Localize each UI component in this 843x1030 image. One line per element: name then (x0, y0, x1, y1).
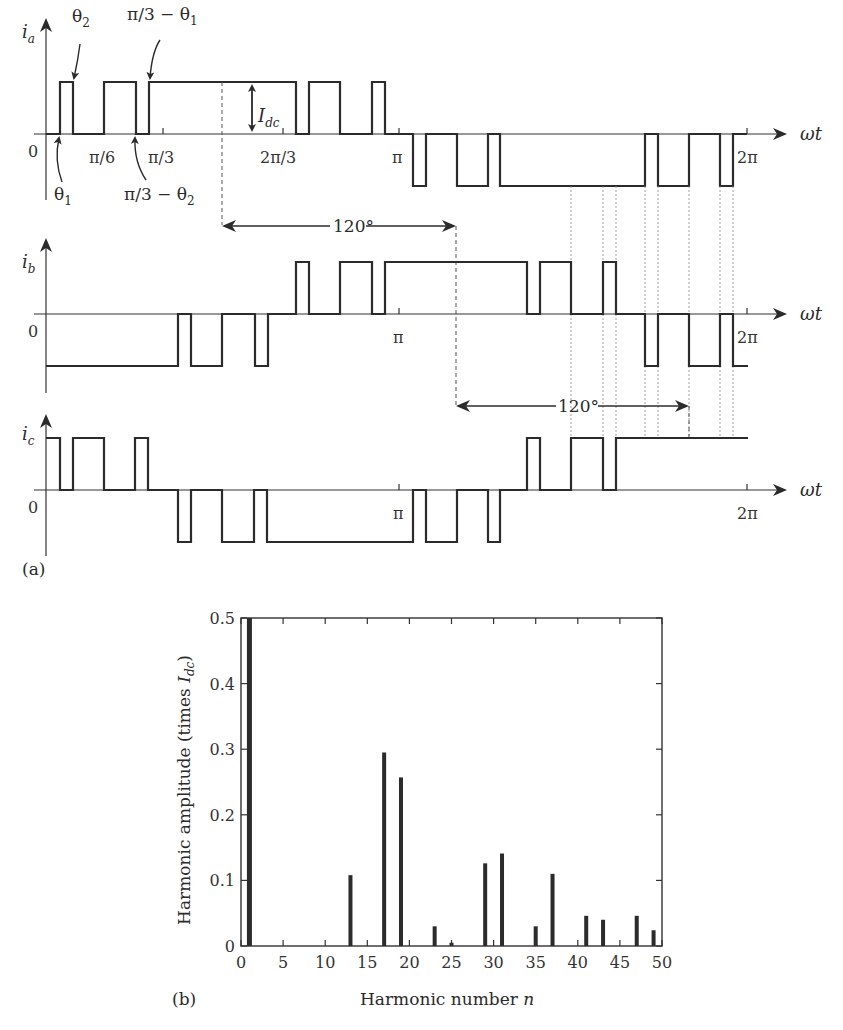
y-tick-label: 0.4 (210, 675, 235, 694)
bar-harmonic-1 (247, 618, 252, 946)
x-tick-label: 25 (441, 953, 461, 972)
idc-label: Idc (257, 105, 280, 130)
ia-zero-label: 0 (28, 142, 38, 161)
figure-canvas: 05101520253035404550 00.10.20.30.40.5 ia… (0, 0, 843, 1030)
panel-b-label: (b) (172, 989, 196, 1009)
ic-tick-pi: π (393, 504, 404, 523)
waveform-ic (34, 416, 785, 556)
ic-xaxis-label: ωt (800, 479, 823, 500)
bar-harmonic-19 (399, 777, 403, 946)
y-tick-label: 0.5 (210, 609, 235, 628)
x-tick-label: 10 (315, 953, 335, 972)
theta2-label: θ2 (72, 6, 90, 30)
tick-pi3: π/3 (148, 148, 174, 167)
bar-harmonic-37 (551, 874, 555, 946)
y-tick-label: 0 (225, 937, 235, 956)
ia-label: ia (22, 21, 35, 46)
bar-harmonic-49 (652, 930, 656, 946)
harmonic-spectrum-chart: 05101520253035404550 00.10.20.30.40.5 (210, 609, 673, 972)
y-tick-label: 0.3 (210, 740, 235, 759)
plot-frame (241, 618, 662, 946)
ia-xaxis-label: ωt (800, 123, 823, 144)
bar-xaxis-label: Harmonic number n (360, 989, 534, 1009)
panel-a-label: (a) (22, 559, 45, 579)
ic-zero-label: 0 (28, 498, 38, 517)
x-tick-label: 40 (568, 953, 588, 972)
pi3-minus-theta2-label: π/3 − θ2 (124, 184, 195, 208)
bar-harmonic-29 (483, 863, 487, 946)
tick-pi: π (392, 148, 403, 167)
waveform-ib (34, 240, 785, 393)
y-tick-label: 0.1 (210, 871, 235, 890)
x-tick-label: 20 (399, 953, 419, 972)
ib-xaxis-label: ωt (800, 303, 823, 324)
ib-label: ib (22, 251, 35, 276)
bars (247, 618, 656, 946)
phase-shift-arrow-1 (224, 226, 456, 405)
bar-harmonic-43 (601, 920, 605, 946)
phase-shift-label-2: 120° (558, 396, 599, 416)
bar-harmonic-13 (348, 875, 352, 946)
phase-shift-label-1: 120° (333, 216, 374, 236)
ib-tick-2pi: 2π (737, 328, 758, 347)
x-ticks: 05101520253035404550 (236, 618, 672, 972)
pi3-minus-theta1-label: π/3 − θ1 (127, 4, 198, 28)
x-tick-label: 30 (483, 953, 503, 972)
ib-zero-label: 0 (28, 322, 38, 341)
x-tick-label: 35 (526, 953, 546, 972)
x-tick-label: 45 (610, 953, 630, 972)
x-tick-label: 0 (236, 953, 246, 972)
x-tick-label: 15 (357, 953, 377, 972)
y-ticks: 00.10.20.30.40.5 (210, 609, 662, 956)
x-tick-label: 5 (278, 953, 288, 972)
bar-harmonic-47 (635, 916, 639, 946)
bar-harmonic-23 (433, 926, 437, 946)
bar-harmonic-17 (382, 752, 386, 946)
bar-harmonic-41 (584, 916, 588, 946)
ib-tick-pi: π (393, 328, 404, 347)
tick-2pi: 2π (737, 148, 758, 167)
theta1-label: θ1 (54, 184, 72, 208)
ic-label: ic (22, 423, 35, 448)
tick-pi6: π/6 (89, 148, 115, 167)
bar-yaxis-label: Harmonic amplitude (times Idc) (174, 655, 197, 925)
y-tick-label: 0.2 (210, 806, 235, 825)
ic-tick-2pi: 2π (737, 504, 758, 523)
tick-2pi3: 2π/3 (260, 148, 296, 167)
x-tick-label: 50 (652, 953, 672, 972)
labels: ia θ2 π/3 − θ1 Idc 0 π/6 π/3 2π/3 π 2π ω… (22, 4, 823, 1009)
bar-harmonic-31 (500, 854, 504, 946)
